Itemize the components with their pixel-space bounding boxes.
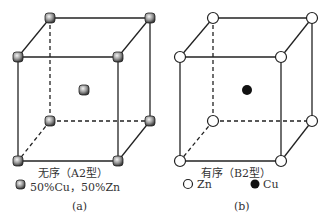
- atoms-a: [13, 13, 155, 166]
- atom-b-cu-center: [242, 85, 252, 95]
- figure-a-legend-label: 50%Cu，50%Zn: [30, 178, 120, 194]
- figure-b-legend-zn-label: Zn: [197, 178, 212, 191]
- figure-b-legend-cu-label: Cu: [263, 178, 279, 191]
- figure-b-caption: (b): [234, 200, 250, 213]
- legend-b-cu-symbol: [251, 180, 260, 189]
- legend-a-symbol: [16, 180, 25, 189]
- figure-a-caption: (a): [72, 200, 87, 213]
- legend-b-zn-symbol: [184, 180, 193, 189]
